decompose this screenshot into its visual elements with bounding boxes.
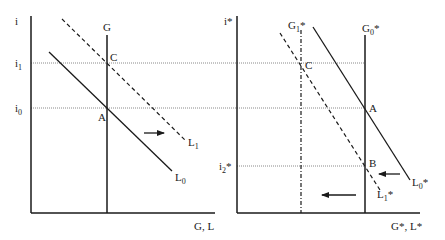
i0-label: i0 <box>15 102 22 117</box>
point-c-left: C <box>110 51 117 63</box>
l0-star-curve <box>313 27 410 180</box>
point-c-right: C <box>305 59 312 71</box>
l1-label: L1 <box>188 136 199 151</box>
left-y-axis-label: i <box>15 15 18 27</box>
right-panel: i* i2* G1* G0* C A B L0* L1* G*, L* <box>219 15 428 232</box>
left-panel: i i1 i0 G C A L1 L0 G, L <box>15 15 215 232</box>
l1-star-label: L1* <box>377 188 393 203</box>
g0-star-label: G0* <box>362 22 379 37</box>
g1-star-label: G1* <box>288 19 305 34</box>
l0-curve <box>49 52 172 171</box>
left-x-axis-label: G, L <box>194 220 214 232</box>
i2-star-label: i2* <box>219 160 232 175</box>
right-y-axis-label: i* <box>224 15 233 27</box>
point-b-right: B <box>369 157 376 169</box>
right-x-axis-label: G*, L* <box>391 220 422 232</box>
l1-curve <box>62 19 185 140</box>
g-label: G <box>103 21 111 33</box>
two-panel-diagram: i i1 i0 G C A L1 L0 G, L i* i2* G1* G0* … <box>0 0 445 240</box>
i1-label: i1 <box>15 57 22 72</box>
l0-label: L0 <box>175 171 186 186</box>
point-a-right: A <box>369 102 377 114</box>
point-a-left: A <box>98 111 106 123</box>
l0-star-label: L0* <box>412 176 428 191</box>
